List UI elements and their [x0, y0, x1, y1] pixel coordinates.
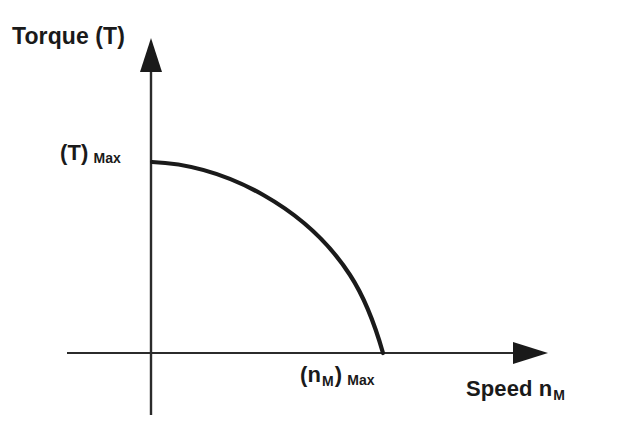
n-max-inline-subscript: M	[322, 373, 334, 389]
n-max-subscript: Max	[347, 372, 375, 388]
t-max-subscript: Max	[93, 150, 121, 166]
torque-speed-curve	[152, 162, 383, 353]
y-axis-title: Torque (T)	[12, 25, 125, 48]
x-axis-title-subscript: M	[553, 387, 565, 403]
n-max-close: )	[335, 362, 342, 387]
n-max-tick-label: (nM)Max	[300, 364, 375, 388]
n-max-open: (n	[300, 362, 321, 387]
t-max-tick-label: (T)Max	[60, 142, 121, 165]
x-axis-title-base: Speed n	[466, 376, 552, 401]
t-max-base: (T)	[60, 140, 88, 165]
x-axis-arrowhead	[513, 342, 548, 364]
x-axis-title: Speed nM	[466, 378, 565, 402]
torque-speed-figure: Torque (T) (T)Max (nM)Max Speed nM	[0, 0, 618, 438]
y-axis-arrowhead	[140, 38, 162, 72]
